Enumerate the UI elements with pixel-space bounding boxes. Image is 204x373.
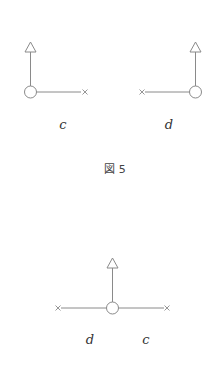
triangle-arrow-icon: [25, 42, 36, 52]
label-c: c: [59, 117, 67, 132]
x-mark-icon: [165, 306, 170, 311]
panel-c: c: [25, 42, 88, 132]
circle-node-icon: [25, 86, 37, 98]
label-c: c: [142, 332, 150, 347]
panel-dc: d c: [56, 258, 170, 347]
triangle-arrow-icon: [107, 258, 118, 268]
figure-canvas: c d 図 5 d c: [0, 0, 204, 373]
panel-d: d: [140, 42, 202, 132]
circle-node-icon: [190, 86, 202, 98]
triangle-arrow-icon: [190, 42, 201, 52]
label-d: d: [165, 117, 173, 132]
circle-node-icon: [107, 302, 119, 314]
x-mark-icon: [83, 90, 88, 95]
x-mark-icon: [56, 306, 61, 311]
x-mark-icon: [140, 90, 145, 95]
label-d: d: [86, 332, 94, 347]
figure-caption: 図 5: [104, 163, 126, 176]
